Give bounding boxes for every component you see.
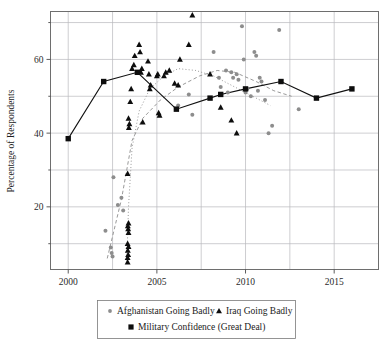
data-point-iraq bbox=[146, 71, 152, 76]
data-point-afghanistan bbox=[110, 251, 114, 255]
legend-square-icon bbox=[128, 324, 133, 329]
data-point-afghanistan bbox=[224, 68, 228, 72]
x-tick-label: 2015 bbox=[325, 277, 344, 287]
data-point-afghanistan bbox=[212, 50, 216, 54]
data-point-afghanistan bbox=[263, 98, 267, 102]
data-point-military bbox=[207, 95, 212, 100]
data-point-iraq bbox=[126, 121, 132, 126]
data-point-afghanistan bbox=[109, 245, 113, 249]
data-point-afghanistan bbox=[249, 94, 253, 98]
data-point-military bbox=[243, 86, 248, 91]
data-point-iraq bbox=[128, 86, 134, 91]
military-confidence-line bbox=[68, 72, 352, 138]
data-point-afghanistan bbox=[187, 92, 191, 96]
data-point-afghanistan bbox=[277, 28, 281, 32]
data-point-iraq bbox=[127, 99, 133, 104]
data-point-iraq bbox=[145, 58, 151, 63]
chart-container: 204060 2000200520102015 Percentage of Re… bbox=[0, 0, 392, 344]
data-point-iraq bbox=[218, 104, 224, 109]
data-point-military bbox=[101, 79, 106, 84]
y-tick-label: 40 bbox=[34, 129, 44, 139]
data-point-iraq bbox=[126, 115, 132, 120]
data-point-afghanistan bbox=[121, 209, 125, 213]
data-point-military bbox=[349, 86, 354, 91]
data-point-afghanistan bbox=[252, 50, 256, 54]
data-point-afghanistan bbox=[119, 196, 123, 200]
trend-lines bbox=[107, 69, 291, 264]
data-point-iraq bbox=[125, 171, 131, 176]
data-point-iraq bbox=[166, 67, 172, 72]
data-point-iraq bbox=[125, 241, 131, 246]
data-point-afghanistan bbox=[259, 80, 263, 84]
data-point-iraq bbox=[189, 12, 195, 17]
data-point-iraq bbox=[186, 42, 192, 47]
data-point-afghanistan bbox=[231, 76, 235, 80]
x-tick-label: 2000 bbox=[59, 277, 78, 287]
data-point-iraq bbox=[177, 56, 183, 61]
chart-legend: Afghanistan Going BadlyIraq Going BadlyM… bbox=[98, 301, 296, 339]
iraq-trend bbox=[127, 69, 271, 264]
data-point-iraq bbox=[132, 53, 138, 58]
y-tick-label: 20 bbox=[34, 202, 44, 212]
data-point-military bbox=[174, 106, 179, 111]
data-point-military bbox=[218, 92, 223, 97]
legend-label-iraq: Iraq Going Badly bbox=[226, 306, 293, 316]
legend-circle-icon bbox=[108, 309, 112, 313]
data-point-afghanistan bbox=[219, 85, 223, 89]
plot-frame bbox=[51, 12, 379, 270]
data-point-afghanistan bbox=[217, 76, 221, 80]
scatter-line-chart: 204060 2000200520102015 Percentage of Re… bbox=[0, 0, 392, 344]
data-point-afghanistan bbox=[103, 229, 107, 233]
data-point-afghanistan bbox=[242, 57, 246, 61]
data-point-afghanistan bbox=[229, 70, 233, 74]
data-point-iraq bbox=[228, 117, 234, 122]
data-point-iraq bbox=[126, 220, 132, 225]
x-tick-labels: 2000200520102015 bbox=[59, 277, 344, 287]
data-point-afghanistan bbox=[256, 89, 260, 93]
y-tick-label: 60 bbox=[34, 55, 44, 65]
data-point-military bbox=[66, 136, 71, 141]
data-point-afghanistan bbox=[111, 255, 115, 259]
data-point-afghanistan bbox=[254, 54, 258, 58]
data-point-iraq bbox=[155, 71, 161, 76]
data-point-iraq bbox=[137, 49, 143, 54]
data-point-iraq bbox=[131, 62, 137, 67]
data-point-afghanistan bbox=[240, 24, 244, 28]
data-point-afghanistan bbox=[258, 76, 262, 80]
data-point-afghanistan bbox=[236, 78, 240, 82]
series-connecting-line bbox=[68, 72, 352, 138]
data-point-afghanistan bbox=[226, 91, 230, 95]
y-axis-title: Percentage of Respondents bbox=[6, 89, 16, 192]
data-point-military bbox=[278, 79, 283, 84]
legend-label-afghanistan: Afghanistan Going Badly bbox=[117, 306, 215, 316]
data-point-afghanistan bbox=[111, 175, 115, 179]
legend-label-military: Military Confidence (Great Deal) bbox=[138, 322, 265, 333]
data-point-afghanistan bbox=[116, 203, 120, 207]
gridlines bbox=[51, 12, 379, 270]
data-point-afghanistan bbox=[190, 113, 194, 117]
data-point-military bbox=[314, 95, 319, 100]
y-tick-labels: 204060 bbox=[34, 55, 44, 212]
data-points bbox=[66, 12, 355, 264]
data-point-afghanistan bbox=[270, 124, 274, 128]
x-tick-label: 2010 bbox=[236, 277, 255, 287]
data-point-afghanistan bbox=[235, 72, 239, 76]
data-point-iraq bbox=[136, 42, 142, 47]
x-tick-label: 2005 bbox=[147, 277, 166, 287]
data-point-military bbox=[135, 70, 140, 75]
axis-ticks bbox=[47, 23, 335, 274]
data-point-afghanistan bbox=[267, 131, 271, 135]
data-point-afghanistan bbox=[297, 107, 301, 111]
data-point-iraq bbox=[234, 130, 240, 135]
